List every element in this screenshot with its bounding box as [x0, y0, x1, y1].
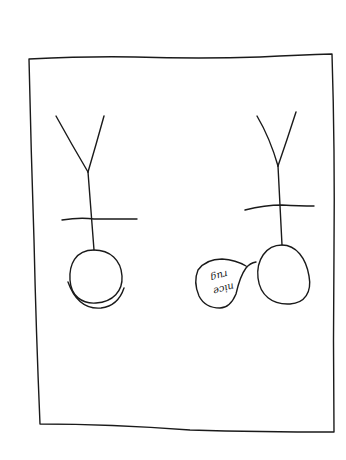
right-figure-head [258, 245, 310, 304]
right-figure [245, 112, 314, 304]
right-figure-right-arm [278, 112, 296, 166]
left-figure-body [88, 172, 94, 250]
left-figure-left-arm [56, 116, 88, 172]
speech-bubble-text-line2: rug [209, 269, 229, 284]
right-figure-left-arm [257, 116, 278, 166]
left-figure [56, 116, 137, 308]
speech-bubble: nice rug [196, 259, 256, 308]
sketch-canvas: nice rug [0, 0, 346, 460]
left-figure-right-arm [88, 116, 104, 172]
frame-border [29, 54, 334, 432]
left-figure-head [70, 250, 122, 303]
left-figure-crossbar [62, 218, 137, 220]
